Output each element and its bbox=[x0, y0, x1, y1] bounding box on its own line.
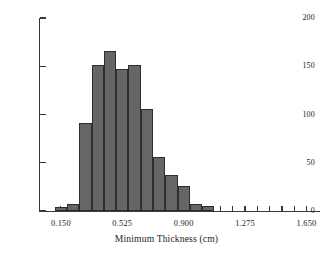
histogram-bar bbox=[153, 157, 165, 211]
histogram-bar bbox=[141, 109, 153, 211]
x-axis-title: Minimum Thickness (cm) bbox=[0, 233, 333, 244]
histogram-bar bbox=[79, 123, 91, 211]
histogram-bar bbox=[67, 204, 79, 211]
x-tick-label-0.525: 0.525 bbox=[112, 219, 132, 228]
x-tick bbox=[306, 206, 307, 211]
x-tick-label-0.900: 0.900 bbox=[174, 219, 194, 228]
y-tick-label-0: 0 bbox=[311, 207, 315, 215]
histogram-bar bbox=[128, 65, 140, 211]
histogram-bar bbox=[165, 175, 177, 211]
x-tick bbox=[257, 206, 258, 211]
histogram-bar bbox=[190, 204, 202, 211]
histogram-bar bbox=[55, 207, 67, 211]
x-tick bbox=[232, 206, 233, 211]
y-tick-label-50: 50 bbox=[307, 159, 315, 167]
x-tick-label-1.650: 1.650 bbox=[297, 219, 317, 228]
y-tick-150 bbox=[40, 66, 46, 67]
histogram-bar bbox=[92, 65, 104, 211]
histogram-bar bbox=[202, 206, 214, 211]
histogram-bar bbox=[104, 51, 116, 211]
y-tick-200 bbox=[40, 17, 46, 18]
x-tick bbox=[220, 206, 221, 211]
x-tick bbox=[269, 206, 270, 211]
y-tick-100 bbox=[40, 114, 46, 115]
histogram-bar bbox=[178, 186, 190, 211]
y-tick-0 bbox=[40, 210, 46, 211]
x-tick bbox=[281, 206, 282, 211]
x-tick bbox=[244, 206, 245, 211]
plot-area: 050100150200 0.1500.5250.9001.2751.650 bbox=[40, 18, 320, 211]
x-tick-label-1.275: 1.275 bbox=[235, 219, 255, 228]
y-tick-label-150: 150 bbox=[302, 62, 315, 70]
histogram-chart: 050100150200 0.1500.5250.9001.2751.650 M… bbox=[0, 0, 333, 259]
y-tick-label-100: 100 bbox=[302, 111, 315, 119]
y-tick-label-200: 200 bbox=[302, 14, 315, 22]
y-tick-50 bbox=[40, 162, 46, 163]
x-tick-label-0.150: 0.150 bbox=[51, 219, 71, 228]
histogram-bar bbox=[116, 69, 128, 211]
x-tick bbox=[294, 206, 295, 211]
